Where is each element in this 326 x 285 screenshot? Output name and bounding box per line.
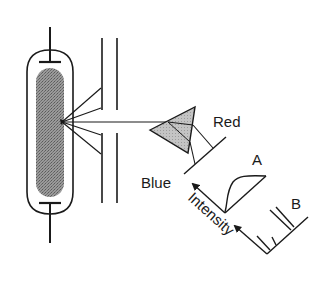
label-red: Red <box>213 113 241 130</box>
baseline-b <box>267 217 308 254</box>
label-blue: Blue <box>141 174 171 191</box>
spectrum-line-b2 <box>272 237 276 245</box>
label-spectrum-b: B <box>291 195 301 212</box>
blue-beam <box>190 142 195 164</box>
baseline-a <box>225 176 266 213</box>
spectroscope-diagram: Red Blue A B Intensity <box>0 0 326 285</box>
intensity-axis-b <box>235 207 308 254</box>
spectrum-line-b1 <box>257 236 270 250</box>
label-spectrum-a: A <box>252 151 262 168</box>
label-intensity: Intensity <box>185 189 238 239</box>
prism <box>150 107 195 153</box>
red-beam <box>193 125 213 148</box>
discharge-tube <box>27 27 73 243</box>
light-rays <box>62 88 168 154</box>
slit-assembly <box>102 38 117 203</box>
gas-column <box>36 68 64 197</box>
